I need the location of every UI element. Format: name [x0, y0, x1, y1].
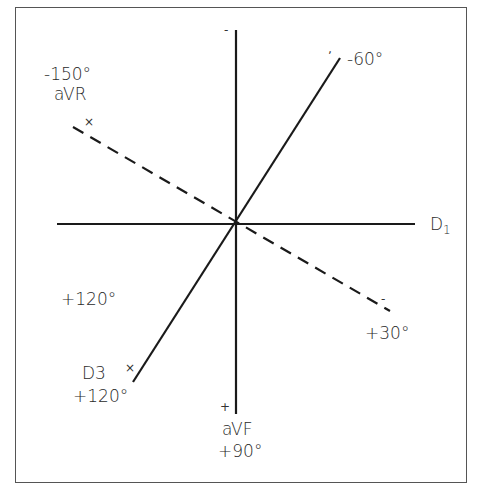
d3-angle-label: +120°	[73, 386, 128, 406]
plus30-tick-mark: -	[381, 293, 385, 305]
minus60-tick-mark: ʼ	[328, 50, 332, 62]
avf-name-label: aVF	[222, 419, 253, 439]
avf-angle-label: +90°	[218, 441, 262, 461]
d3-cross-mark: ×	[125, 362, 135, 374]
d1-label: D1	[430, 214, 451, 240]
avr-name-label: aVR	[54, 84, 87, 104]
minus60-label: -60°	[347, 49, 383, 69]
top-minus-mark: -	[224, 24, 228, 36]
plus30-label: +30°	[365, 323, 409, 343]
avf-plus-mark: +	[220, 401, 230, 413]
d1-main: D	[430, 214, 443, 234]
plus120-mid-label: +120°	[61, 289, 116, 309]
avr-cross-mark: ×	[84, 116, 94, 128]
d3-name-label: D3	[82, 363, 106, 383]
avr-angle-label: -150°	[44, 64, 91, 84]
axis-avr-dashed	[73, 127, 390, 311]
d1-sub: 1	[443, 223, 451, 237]
